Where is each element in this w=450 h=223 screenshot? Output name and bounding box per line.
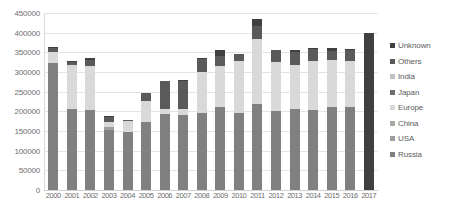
legend-item[interactable]: India <box>390 69 450 85</box>
bar-column[interactable] <box>81 13 100 190</box>
x-axis-tick-label: 2013 <box>285 191 304 209</box>
legend-item[interactable]: Unknown <box>390 38 450 54</box>
bar-segment[interactable] <box>252 26 262 39</box>
bar-column[interactable] <box>267 13 286 190</box>
bar-segment[interactable] <box>327 51 337 60</box>
bar-column[interactable] <box>341 13 360 190</box>
bar-segment[interactable] <box>85 110 95 190</box>
x-axis-tick-label: 2015 <box>322 191 341 209</box>
bar-column[interactable] <box>155 13 174 190</box>
bar-segment[interactable] <box>290 109 300 190</box>
bar-stack[interactable] <box>85 58 95 190</box>
bar-stack[interactable] <box>252 19 262 190</box>
legend-item-label: China <box>398 119 418 128</box>
bar-segment[interactable] <box>178 115 188 190</box>
bar-segment[interactable] <box>252 39 262 104</box>
bar-column[interactable] <box>63 13 82 190</box>
x-axis-tick-label: 2006 <box>155 191 174 209</box>
bar-segment[interactable] <box>215 66 225 107</box>
legend-swatch-icon <box>390 105 395 110</box>
bar-segment[interactable] <box>197 113 207 190</box>
bar-segment[interactable] <box>345 50 355 61</box>
bar-column[interactable] <box>360 13 379 190</box>
bar-column[interactable] <box>118 13 137 190</box>
bar-column[interactable] <box>211 13 230 190</box>
bar-stack[interactable] <box>308 48 318 190</box>
bar-segment[interactable] <box>160 114 170 190</box>
bar-column[interactable] <box>137 13 156 190</box>
bar-segment[interactable] <box>271 50 281 62</box>
bar-stack[interactable] <box>327 48 337 190</box>
bar-stack[interactable] <box>234 54 244 190</box>
legend-item[interactable]: Japan <box>390 85 450 101</box>
legend-item[interactable]: Others <box>390 54 450 70</box>
bar-segment[interactable] <box>160 81 170 109</box>
bar-stack[interactable] <box>141 93 151 190</box>
bar-segment[interactable] <box>234 61 244 112</box>
bar-segment[interactable] <box>252 104 262 190</box>
bar-stack[interactable] <box>104 116 114 190</box>
bar-column[interactable] <box>174 13 193 190</box>
bar-segment[interactable] <box>141 122 151 190</box>
bar-stack[interactable] <box>290 50 300 190</box>
bar-segment[interactable] <box>345 61 355 106</box>
bar-segment[interactable] <box>234 113 244 190</box>
legend-item[interactable]: China <box>390 116 450 132</box>
bar-segment[interactable] <box>308 61 318 110</box>
bar-segment[interactable] <box>104 130 114 190</box>
bar-stack[interactable] <box>197 58 207 190</box>
bar-column[interactable] <box>285 13 304 190</box>
y-axis-tick-label: 300000 <box>15 68 41 77</box>
bar-stack[interactable] <box>271 50 281 190</box>
bar-column[interactable] <box>304 13 323 190</box>
bar-segment[interactable] <box>67 109 77 190</box>
bar-segment[interactable] <box>197 72 207 113</box>
bar-stack[interactable] <box>160 81 170 190</box>
x-axis-tick-label: 2007 <box>174 191 193 209</box>
bar-segment[interactable] <box>308 110 318 190</box>
bar-stack[interactable] <box>48 47 58 190</box>
bar-stack[interactable] <box>345 49 355 190</box>
bar-segment[interactable] <box>345 107 355 190</box>
bar-column[interactable] <box>248 13 267 190</box>
bar-segment[interactable] <box>290 52 300 65</box>
bar-segment[interactable] <box>252 19 262 26</box>
legend-item[interactable]: USA <box>390 131 450 147</box>
bar-stack[interactable] <box>123 120 133 190</box>
bar-segment[interactable] <box>215 56 225 65</box>
bar-segment[interactable] <box>234 54 244 62</box>
bar-column[interactable] <box>100 13 119 190</box>
bar-segment[interactable] <box>197 59 207 72</box>
bar-segment[interactable] <box>85 66 95 110</box>
bar-stack[interactable] <box>178 80 188 190</box>
bar-segment[interactable] <box>178 81 188 109</box>
bar-segment[interactable] <box>123 121 133 132</box>
bar-column[interactable] <box>193 13 212 190</box>
x-axis-tick-label: 2004 <box>118 191 137 209</box>
bar-segment[interactable] <box>123 132 133 190</box>
bar-column[interactable] <box>230 13 249 190</box>
bar-column[interactable] <box>44 13 63 190</box>
bar-segment[interactable] <box>141 101 151 123</box>
legend-swatch-icon <box>390 43 395 48</box>
legend-item[interactable]: Europe <box>390 100 450 116</box>
bar-column[interactable] <box>322 13 341 190</box>
bar-segment[interactable] <box>290 65 300 109</box>
bar-segment[interactable] <box>308 49 318 61</box>
bar-segment[interactable] <box>48 52 58 63</box>
y-axis-tick-label: 200000 <box>15 107 41 116</box>
bar-stack[interactable] <box>364 33 374 190</box>
bar-stack[interactable] <box>215 50 225 190</box>
bar-segment[interactable] <box>271 62 281 112</box>
bar-segment[interactable] <box>48 63 58 190</box>
bar-segment[interactable] <box>271 111 281 190</box>
bar-segment[interactable] <box>141 93 151 101</box>
legend-item[interactable]: Russia <box>390 147 450 163</box>
bar-stack[interactable] <box>67 61 77 190</box>
legend-swatch-icon <box>390 59 395 64</box>
bar-segment[interactable] <box>327 107 337 190</box>
bar-segment[interactable] <box>364 33 374 190</box>
bar-segment[interactable] <box>327 60 337 107</box>
bar-segment[interactable] <box>215 107 225 190</box>
bar-segment[interactable] <box>67 65 77 109</box>
